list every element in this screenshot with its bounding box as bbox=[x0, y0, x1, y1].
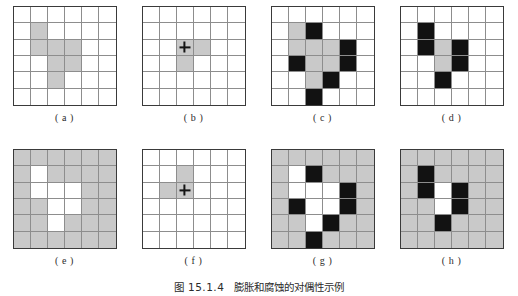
grid-cell bbox=[14, 23, 31, 39]
grid-cell bbox=[272, 199, 289, 215]
grid-cell bbox=[82, 7, 99, 23]
grid-cell bbox=[401, 166, 418, 182]
grid-cell bbox=[435, 72, 452, 88]
grid-cell bbox=[272, 72, 289, 88]
grid-cell bbox=[143, 7, 160, 23]
grid-cell bbox=[143, 150, 160, 166]
grid-cell bbox=[435, 7, 452, 23]
grid-cell bbox=[228, 89, 245, 105]
grid-cell bbox=[289, 89, 306, 105]
grid-cell bbox=[160, 23, 177, 39]
grid-cell bbox=[289, 40, 306, 56]
grid-cell bbox=[435, 215, 452, 231]
grid-cell bbox=[48, 232, 65, 248]
grid-cell bbox=[306, 40, 323, 56]
grid-cell bbox=[340, 199, 357, 215]
grid-cell bbox=[48, 72, 65, 88]
grid-cell bbox=[357, 215, 374, 231]
grid-cell bbox=[357, 7, 374, 23]
panel-c: ( c ) bbox=[258, 6, 387, 140]
grid-cell bbox=[82, 72, 99, 88]
grid-b bbox=[142, 6, 246, 106]
grid-cell bbox=[82, 183, 99, 199]
grid-cell bbox=[228, 166, 245, 182]
panel-a: ( a ) bbox=[0, 6, 129, 140]
grid-cell bbox=[401, 215, 418, 231]
panel-row-bottom: ( e )( f )( g )( h ) bbox=[0, 149, 518, 287]
panel-d: ( d ) bbox=[387, 6, 516, 140]
grid-cell bbox=[357, 166, 374, 182]
grid-cell bbox=[486, 183, 503, 199]
grid-cell bbox=[435, 183, 452, 199]
grid-cell bbox=[435, 56, 452, 72]
grid-cell bbox=[306, 89, 323, 105]
grid-h bbox=[400, 149, 504, 249]
grid-cell bbox=[323, 23, 340, 39]
grid-cell bbox=[306, 23, 323, 39]
grid-cell bbox=[228, 40, 245, 56]
grid-cell bbox=[272, 7, 289, 23]
grid-cell bbox=[486, 166, 503, 182]
panel-b: ( b ) bbox=[129, 6, 258, 140]
grid-cell bbox=[469, 150, 486, 166]
grid-cell bbox=[289, 166, 306, 182]
grid-cell bbox=[211, 199, 228, 215]
grid-cell bbox=[211, 72, 228, 88]
grid-cell bbox=[418, 89, 435, 105]
grid-cell bbox=[143, 23, 160, 39]
grid-cell bbox=[99, 166, 116, 182]
grid-cell bbox=[65, 7, 82, 23]
grid-cell bbox=[48, 215, 65, 231]
grid-cell bbox=[289, 150, 306, 166]
grid-cell bbox=[357, 150, 374, 166]
grid-cell bbox=[99, 89, 116, 105]
figure-caption-text: 膨胀和腐蚀的对偶性示例 bbox=[234, 281, 344, 293]
grid-cell bbox=[306, 199, 323, 215]
panel-label-f: ( f ) bbox=[129, 255, 258, 266]
grid-cell bbox=[435, 23, 452, 39]
grid-cell bbox=[194, 89, 211, 105]
figure-caption-number: 图 15.1.4 bbox=[174, 281, 225, 293]
grid-cell bbox=[177, 199, 194, 215]
grid-cell bbox=[177, 150, 194, 166]
grid-cell bbox=[211, 23, 228, 39]
grid-cell bbox=[31, 56, 48, 72]
grid-cell bbox=[228, 56, 245, 72]
grid-cell bbox=[469, 23, 486, 39]
grid-cell bbox=[469, 166, 486, 182]
grid-cells-h bbox=[401, 150, 503, 248]
panel-row-top: ( a )( b )( c )( d ) bbox=[0, 6, 518, 144]
grid-cell bbox=[340, 23, 357, 39]
origin-plus-icon bbox=[179, 42, 190, 53]
grid-a bbox=[13, 6, 117, 106]
grid-cell bbox=[82, 56, 99, 72]
grid-cell bbox=[452, 215, 469, 231]
grid-cell bbox=[65, 215, 82, 231]
panel-e: ( e ) bbox=[0, 149, 129, 283]
grid-cell bbox=[82, 40, 99, 56]
grid-cell bbox=[160, 166, 177, 182]
grid-cell bbox=[14, 89, 31, 105]
grid-cell bbox=[340, 56, 357, 72]
grid-cells-c bbox=[272, 7, 374, 105]
grid-cell bbox=[418, 183, 435, 199]
grid-cell bbox=[469, 232, 486, 248]
grid-cell bbox=[340, 7, 357, 23]
grid-cell bbox=[306, 166, 323, 182]
grid-cell bbox=[65, 40, 82, 56]
grid-cell bbox=[486, 215, 503, 231]
panel-label-h: ( h ) bbox=[387, 255, 516, 266]
grid-cell bbox=[357, 56, 374, 72]
grid-cell bbox=[340, 40, 357, 56]
grid-cell bbox=[143, 166, 160, 182]
grid-cell bbox=[323, 150, 340, 166]
grid-cell bbox=[486, 23, 503, 39]
grid-cell bbox=[99, 7, 116, 23]
grid-cell bbox=[82, 199, 99, 215]
grid-cell bbox=[65, 23, 82, 39]
grid-cell bbox=[306, 72, 323, 88]
grid-cell bbox=[14, 199, 31, 215]
grid-cell bbox=[469, 40, 486, 56]
grid-cell bbox=[401, 40, 418, 56]
grid-cell bbox=[401, 183, 418, 199]
